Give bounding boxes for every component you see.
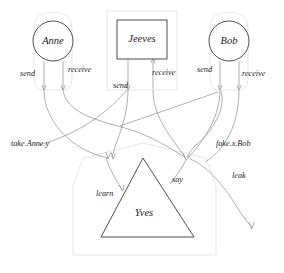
edge-label-say: say xyxy=(172,175,183,184)
edge-label-leak: leak xyxy=(232,171,246,180)
edge-label-jeeves-receive: receive xyxy=(152,68,176,77)
node-label-yves: Yves xyxy=(135,207,153,218)
edge-label-anne-receive: receive xyxy=(68,65,92,74)
edge-label-take-anne-y: take.Anne.y xyxy=(11,139,50,148)
node-label-jeeves: Jeeves xyxy=(128,33,155,44)
node-group xyxy=(33,20,249,237)
edge-label-bob-send: send xyxy=(197,65,213,74)
edge-bob-cross xyxy=(120,92,218,126)
edge-leak xyxy=(190,159,252,228)
edge-anne-send-tail xyxy=(44,90,108,158)
node-label-anne: Anne xyxy=(41,35,64,46)
edge-learn xyxy=(106,158,122,190)
edge-label-bob-receive: receive xyxy=(242,69,266,78)
edge-label-learn: learn xyxy=(96,189,113,198)
edge-label-anne-send: send xyxy=(20,69,36,78)
node-label-bob: Bob xyxy=(221,35,238,46)
diagram-canvas: Anne Jeeves Bob Yves send receive send r… xyxy=(0,0,284,273)
arrowhead-learn-head xyxy=(119,185,124,191)
edge-take-anne-y xyxy=(40,90,127,145)
edge-label-jeeves-send: send xyxy=(113,81,129,90)
edge-label-fake-x-bob: fake.x.Bob xyxy=(216,139,251,148)
process-interaction-diagram: Anne Jeeves Bob Yves send receive send r… xyxy=(0,0,284,273)
